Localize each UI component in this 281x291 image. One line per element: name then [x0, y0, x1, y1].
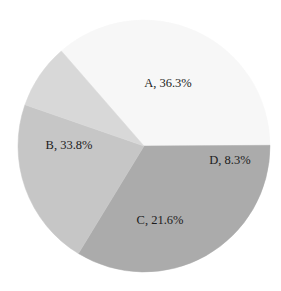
- pie-chart-svg: A, 36.3% B, 33.8% C, 21.6% D, 8.3%: [0, 0, 281, 291]
- pie-chart-figure: A, 36.3% B, 33.8% C, 21.6% D, 8.3%: [0, 0, 281, 291]
- pie-label-a: A, 36.3%: [144, 76, 192, 90]
- pie-label-d: D, 8.3%: [209, 153, 250, 167]
- pie-label-b: B, 33.8%: [46, 138, 93, 152]
- pie-label-c: C, 21.6%: [137, 213, 184, 227]
